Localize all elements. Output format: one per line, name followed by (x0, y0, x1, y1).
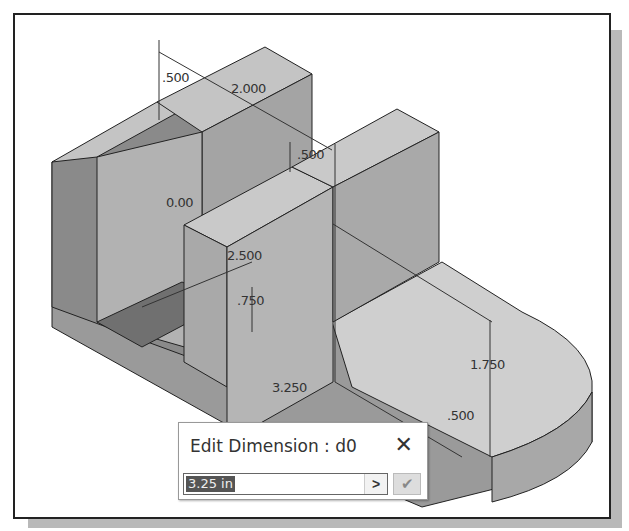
dimension-value-input[interactable]: 3.25 in > (183, 473, 388, 495)
dimension-bottom[interactable]: .500 (447, 408, 474, 423)
arrow-button[interactable]: > (364, 474, 387, 494)
dimension-angle[interactable]: 0.00 (166, 195, 193, 210)
dimension-height[interactable]: 2.500 (227, 248, 262, 263)
dimension-slot[interactable]: .750 (237, 293, 264, 308)
dimension-length[interactable]: 3.250 (272, 380, 307, 395)
graphics-window[interactable]: .500 2.000 .500 0.00 2.500 .750 1.750 3.… (13, 13, 611, 519)
dimension-top-left[interactable]: .500 (162, 70, 189, 85)
dialog-title: Edit Dimension : d0 (190, 436, 357, 456)
close-icon[interactable]: ✕ (395, 432, 413, 457)
dimension-top-width[interactable]: 2.000 (231, 81, 266, 96)
checkmark-icon[interactable]: ✔ (393, 473, 421, 495)
input-value[interactable]: 3.25 in (186, 476, 235, 492)
dimension-right-height[interactable]: 1.750 (470, 357, 505, 372)
edit-dimension-dialog: Edit Dimension : d0 ✕ 3.25 in > ✔ (178, 422, 428, 500)
dimension-mid[interactable]: .500 (297, 147, 324, 162)
